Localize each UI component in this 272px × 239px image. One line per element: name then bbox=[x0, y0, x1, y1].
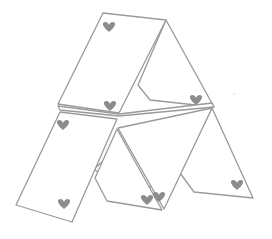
house-of-cards-illustration bbox=[0, 0, 272, 239]
